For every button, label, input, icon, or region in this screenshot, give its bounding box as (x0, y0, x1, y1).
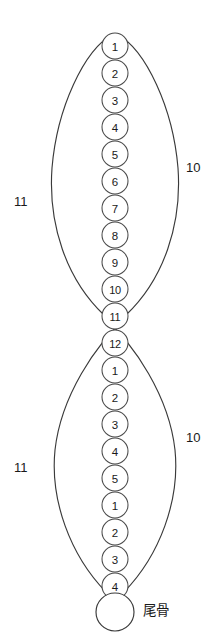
vertebra-number: 5 (112, 473, 118, 485)
vertebra-number: 2 (112, 392, 118, 404)
vertebra-node: 8 (102, 222, 128, 248)
vertebrae-group: 123456789101112123451234 (102, 33, 128, 599)
vertebra-number: 9 (112, 257, 118, 269)
coccyx-label: 尾骨 (143, 604, 169, 618)
vertebra-node: 10 (102, 276, 128, 302)
vertebra-node: 9 (102, 249, 128, 275)
vertebra-number: 11 (110, 311, 121, 323)
vertebra-node: 4 (102, 438, 128, 464)
vertebra-node: 6 (102, 168, 128, 194)
vertebra-number: 3 (112, 419, 118, 431)
vertebra-number: 4 (112, 581, 119, 593)
vertebra-node: 11 (102, 303, 128, 329)
vertebra-node: 1 (102, 357, 128, 383)
vertebra-number: 1 (112, 365, 118, 377)
vertebra-number: 7 (112, 203, 118, 215)
vertebra-number: 3 (112, 95, 118, 107)
vertebra-number: 2 (112, 527, 118, 539)
vertebra-node: 2 (102, 384, 128, 410)
vertebra-number: 1 (112, 41, 118, 53)
spine-diagram: 123456789101112123451234 11 10 11 10 尾骨 (0, 0, 220, 644)
spine-figure: 123456789101112123451234 (0, 0, 220, 644)
vertebra-node: 5 (102, 465, 128, 491)
vertebra-number: 1 (112, 500, 118, 512)
upper-right-rib-count-label: 10 (186, 161, 200, 174)
vertebra-node: 1 (102, 33, 128, 59)
vertebra-node: 4 (102, 114, 128, 140)
vertebra-node: 3 (102, 546, 128, 572)
vertebra-node: 12 (102, 330, 128, 356)
vertebra-number: 10 (109, 284, 121, 296)
lower-left-rib-count-label: 11 (14, 461, 28, 474)
vertebra-node: 5 (102, 141, 128, 167)
vertebra-node: 1 (102, 492, 128, 518)
vertebra-node: 3 (102, 411, 128, 437)
vertebra-number: 3 (112, 554, 118, 566)
vertebra-number: 12 (109, 338, 121, 350)
vertebra-number: 8 (112, 230, 118, 242)
vertebra-number: 4 (112, 446, 119, 458)
vertebra-node: 3 (102, 87, 128, 113)
vertebra-number: 2 (112, 68, 118, 80)
vertebra-node: 2 (102, 60, 128, 86)
vertebra-number: 4 (112, 122, 119, 134)
coccyx-circle (96, 593, 134, 631)
vertebra-node: 7 (102, 195, 128, 221)
vertebra-number: 6 (112, 176, 118, 188)
vertebra-node: 2 (102, 519, 128, 545)
upper-left-rib-count-label: 11 (14, 195, 28, 208)
vertebra-number: 5 (112, 149, 118, 161)
lower-right-rib-count-label: 10 (186, 431, 200, 444)
